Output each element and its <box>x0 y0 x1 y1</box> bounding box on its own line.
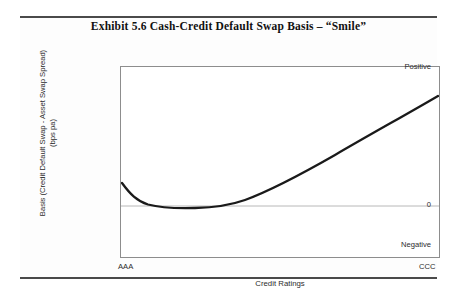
y-tick-label-positive: Positive <box>375 62 437 71</box>
x-axis-title: Credit Ratings <box>120 279 440 288</box>
page-title: Exhibit 5.6 Cash-Credit Default Swap Bas… <box>20 20 437 32</box>
chart-canvas <box>121 67 439 257</box>
y-axis-title-units: (bps pa) <box>48 8 58 258</box>
exhibit-frame: Basis (Credit Default Swap - Asset Swap … <box>20 16 437 279</box>
y-axis-title-line1: Basis (Credit Default Swap - Asset Swap … <box>38 50 47 216</box>
plot-area <box>120 66 440 258</box>
y-tick-label-negative: Negative <box>375 240 437 249</box>
y-tick-label-zero: 0 <box>375 200 437 209</box>
y-axis-title: Basis (Credit Default Swap - Asset Swap … <box>38 8 58 258</box>
x-tick-label-aaa: AAA <box>118 262 133 271</box>
x-tick-label-ccc: CCC <box>419 262 435 271</box>
basis-smile-curve <box>122 96 438 208</box>
